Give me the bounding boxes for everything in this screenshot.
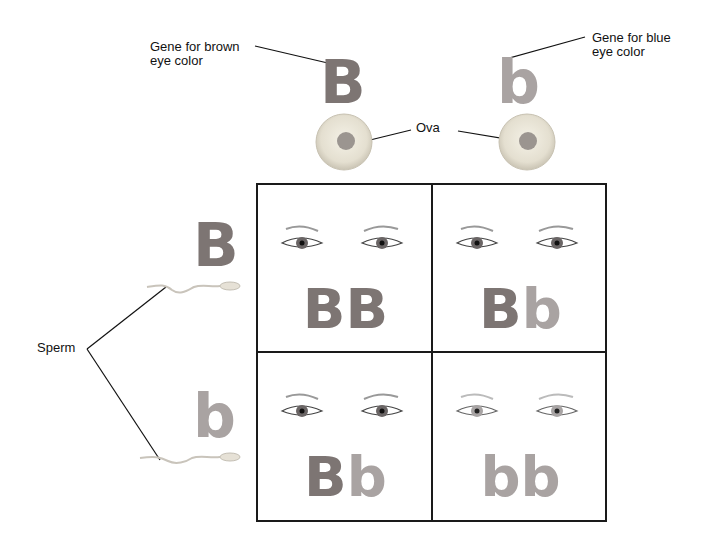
genotype-Bb: Bb bbox=[433, 281, 608, 337]
punnett-cell-Bb-top: Bb bbox=[433, 185, 608, 353]
brown-eyes-icon bbox=[276, 389, 416, 429]
sperm-top-icon bbox=[147, 282, 240, 293]
punnett-cell-BB: BB bbox=[258, 185, 433, 353]
punnett-cell-Bb-bottom: Bb bbox=[258, 353, 433, 521]
blue-eyes-icon bbox=[451, 389, 591, 429]
brown-eyes-icon bbox=[451, 221, 591, 261]
sperm-bottom-icon bbox=[140, 453, 240, 463]
brown-eyes-icon bbox=[276, 221, 416, 261]
punnett-cell-bb: bb bbox=[433, 353, 608, 521]
genotype-Bb: Bb bbox=[258, 449, 433, 505]
genotype-BB: BB bbox=[258, 281, 433, 337]
genotype-bb: bb bbox=[433, 449, 608, 505]
